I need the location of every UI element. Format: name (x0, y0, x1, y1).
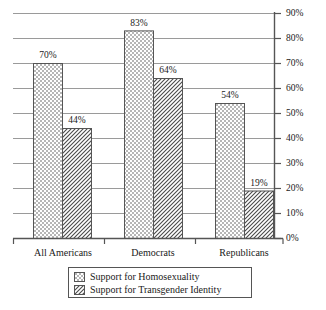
y-tick-label-40: 40% (286, 133, 303, 143)
legend-item-transgender[interactable]: Support for Transgender Identity (74, 283, 251, 296)
bar-republicans-transgender[interactable] (245, 191, 274, 239)
value-label-republicans-homosexuality: 54% (210, 90, 250, 100)
x-tick-label-republicans: Republicans (199, 247, 289, 258)
y-tick-label-30: 30% (286, 158, 303, 168)
bar-group-democrats (125, 31, 183, 239)
bar-all-americans-transgender[interactable] (63, 129, 92, 239)
value-label-democrats-homosexuality: 83% (119, 18, 159, 28)
legend-label-transgender: Support for Transgender Identity (90, 284, 221, 296)
y-tick-label-80: 80% (286, 33, 303, 43)
bar-democrats-transgender[interactable] (154, 79, 183, 239)
value-label-all-americans-transgender: 44% (57, 115, 97, 125)
value-label-democrats-transgender: 64% (148, 65, 188, 75)
value-label-all-americans-homosexuality: 70% (28, 50, 68, 60)
legend-swatch-dotted-icon (74, 272, 85, 282)
y-tick-label-70: 70% (286, 58, 303, 68)
y-tick-label-90: 90% (286, 8, 303, 18)
bar-group-republicans (216, 104, 274, 239)
chart-legend: Support for Homosexuality Support for Tr… (68, 267, 252, 298)
y-tick-label-60: 60% (286, 83, 303, 93)
chart-canvas (0, 0, 326, 310)
legend-label-homosexuality: Support for Homosexuality (90, 271, 199, 283)
x-tick-label-all-americans: All Americans (18, 247, 108, 258)
y-tick-label-50: 50% (286, 108, 303, 118)
y-axis-ticks (275, 14, 282, 239)
legend-item-homosexuality[interactable]: Support for Homosexuality (74, 270, 251, 283)
y-tick-label-0: 0% (286, 233, 299, 243)
y-tick-label-20: 20% (286, 183, 303, 193)
x-tick-label-democrats: Democrats (108, 247, 198, 258)
bar-republicans-homosexuality[interactable] (216, 104, 245, 239)
y-tick-label-10: 10% (286, 208, 303, 218)
bar-all-americans-homosexuality[interactable] (34, 64, 63, 239)
bar-group-all-americans (34, 64, 92, 239)
value-label-republicans-transgender: 19% (239, 178, 279, 188)
legend-swatch-hatch-icon (74, 285, 85, 295)
bar-democrats-homosexuality[interactable] (125, 31, 154, 239)
bar-chart: 90% 80% 70% 60% 50% 40% 30% 20% 10% 0% 7… (0, 0, 326, 310)
x-axis-ticks (14, 239, 284, 245)
